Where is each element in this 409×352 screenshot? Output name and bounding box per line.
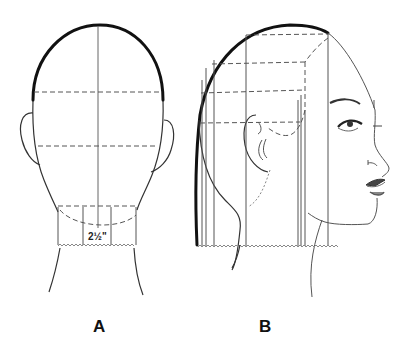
nose-icon (368, 163, 377, 166)
panel-b-side-view: B (196, 25, 389, 336)
lips-icon (366, 179, 385, 195)
panel-a-back-view: 2½" A (20, 25, 173, 336)
head-a-neck-left (49, 248, 60, 292)
head-b-parting-2 (201, 90, 305, 93)
ear-icon (244, 115, 268, 172)
chin-jaw-outline (308, 198, 377, 225)
head-b-parting-1 (212, 62, 305, 64)
head-a-neck-right (134, 248, 143, 295)
head-b-parting-3 (200, 122, 300, 123)
head-b-parting-top (246, 34, 328, 35)
neck-front (311, 220, 322, 297)
panel-a-label: A (93, 317, 105, 336)
diagram-canvas: 2½" A (0, 0, 409, 352)
measurement-label: 2½" (88, 231, 107, 242)
head-b-cut-line (198, 245, 338, 247)
panel-b-label: B (259, 317, 271, 336)
behind-ear-curve (268, 62, 305, 136)
head-b-corner-diagonal (305, 38, 328, 62)
head-a-cut-line (58, 244, 134, 246)
ear-to-nape-dotted (248, 170, 270, 207)
head-a-lower-left (33, 100, 58, 212)
head-a-lower-right (137, 100, 163, 210)
face-profile-outline (328, 33, 389, 177)
